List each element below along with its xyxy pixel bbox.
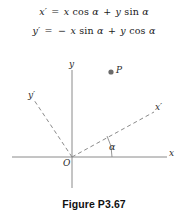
plus-sign: + (102, 6, 112, 17)
y-prime-axis-line (34, 100, 72, 157)
minus-sign: − (57, 25, 67, 36)
point-p-marker (108, 69, 113, 74)
term1-variable: x (70, 25, 76, 36)
term2-function: cos (129, 25, 146, 36)
term2-variable: y (116, 6, 122, 17)
equation-lhs-prime: ′ (45, 6, 47, 17)
y-prime-equation: y′ = − x sin α + y cos α (0, 21, 188, 40)
term1-angle: α (97, 25, 104, 36)
y-axis-label: y (69, 59, 74, 69)
equation-block: x′ = x cos α + y sin α y′ = − x sin α + … (0, 2, 188, 40)
y-prime-axis-label: y′ (28, 90, 35, 100)
angle-alpha-label: α (109, 141, 115, 152)
term1-function: sin (79, 25, 94, 36)
diagram-svg (0, 55, 188, 195)
term2-angle: α (142, 6, 149, 17)
coordinate-rotation-diagram (0, 55, 188, 195)
x-axis-label: x (169, 148, 174, 158)
figure-caption: Figure P3.67 (0, 198, 188, 210)
point-p-label: P (116, 65, 122, 75)
term2-variable: y (120, 25, 126, 36)
figure-p3-67: x′ = x cos α + y sin α y′ = − x sin α + … (0, 0, 188, 218)
term1-angle: α (92, 6, 99, 17)
plus-sign: + (107, 25, 117, 36)
origin-label: O (63, 158, 70, 168)
term1-variable: x (64, 6, 70, 17)
x-prime-axis-label: x′ (155, 102, 162, 112)
term2-angle: α (149, 25, 156, 36)
term2-function: sin (124, 6, 139, 17)
equation-lhs-prime: ′ (38, 25, 40, 36)
equals-sign: = (44, 25, 54, 36)
equals-sign: = (50, 6, 60, 17)
x-prime-equation: x′ = x cos α + y sin α (0, 2, 188, 21)
term1-function: cos (73, 6, 90, 17)
